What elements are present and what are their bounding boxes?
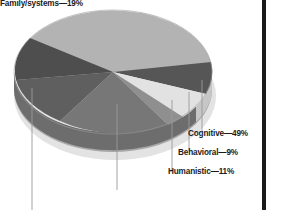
pie-chart-figure: Cognitive—49% Behavioral—9% Humanistic—1… xyxy=(0,0,282,210)
slice-label-behavioral: Behavioral—9% xyxy=(178,149,238,157)
slice-label-humanistic: Humanistic—11% xyxy=(168,168,234,176)
slice-label-cognitive: Cognitive—49% xyxy=(188,130,248,138)
page-margin-rule xyxy=(262,0,266,210)
slice-label-family-systems: Family/systems—19% xyxy=(0,0,83,8)
pie-chart-graphic xyxy=(0,0,282,210)
